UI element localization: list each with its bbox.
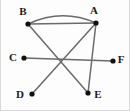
graph-canvas: ABCDEF	[0, 0, 130, 111]
vertex-label-c: C	[9, 51, 17, 63]
edge-b-a	[28, 23, 96, 24]
edges-layer	[24, 16, 113, 94]
vertex-dot-c	[21, 55, 26, 60]
vertex-dot-d	[29, 91, 34, 96]
vertex-label-a: A	[90, 4, 98, 16]
edge-c-f	[24, 58, 113, 61]
edge-a-e	[88, 23, 96, 93]
vertex-label-f: F	[118, 53, 125, 65]
vertex-label-d: D	[16, 88, 24, 100]
graph-figure: ABCDEF	[0, 0, 130, 111]
labels-layer: ABCDEF	[9, 4, 125, 100]
vertex-dot-f	[110, 58, 115, 63]
vertex-dot-a	[93, 20, 98, 25]
vertex-label-b: B	[19, 5, 27, 17]
vertex-dot-e	[85, 90, 90, 95]
vertex-dot-b	[25, 21, 30, 26]
vertex-label-e: E	[94, 88, 101, 100]
